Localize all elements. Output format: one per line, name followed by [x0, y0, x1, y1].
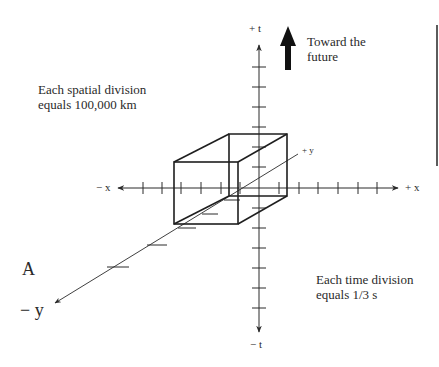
spacetime-box — [174, 134, 287, 224]
time-note-line2: equals 1/3 s — [316, 287, 413, 302]
future-arrow-icon — [280, 26, 296, 70]
plus-t-label: + t — [249, 22, 261, 34]
minus-x-label: − x — [96, 181, 110, 193]
time-division-note: Each time division equals 1/3 s — [316, 272, 413, 302]
future-note-line1: Toward the — [307, 34, 366, 49]
spatial-note-line2: equals 100,000 km — [38, 97, 146, 112]
future-note: Toward the future — [307, 34, 366, 64]
spacetime-diagram — [0, 0, 439, 367]
plus-x-label: + x — [405, 181, 419, 193]
x-axis — [118, 182, 398, 194]
spatial-division-note: Each spatial division equals 100,000 km — [38, 82, 146, 112]
minus-y-label: − y — [20, 300, 44, 321]
minus-t-label: − t — [250, 338, 262, 350]
future-note-line2: future — [307, 49, 366, 64]
time-note-line1: Each time division — [316, 272, 413, 287]
spatial-note-line1: Each spatial division — [38, 82, 146, 97]
plus-y-label: + y — [302, 145, 314, 155]
panel-label: A — [22, 259, 35, 280]
